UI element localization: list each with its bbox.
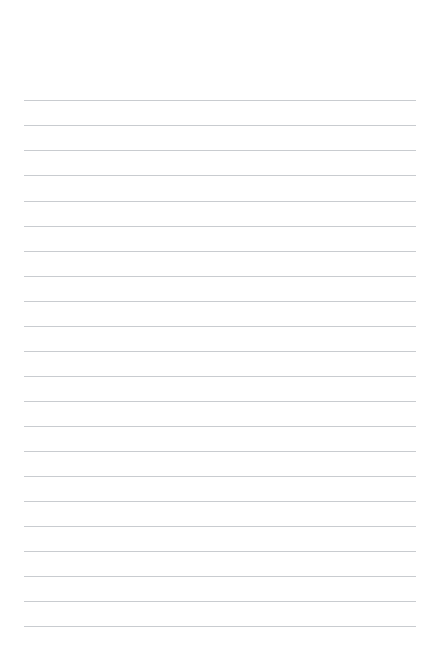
writing-row[interactable] [24,153,416,175]
rule-line [24,501,416,502]
rule-line [24,551,416,552]
writing-row[interactable] [24,204,416,226]
writing-row[interactable] [24,404,416,426]
rule-line [24,251,416,252]
writing-row[interactable] [24,329,416,351]
rule-line [24,100,416,101]
writing-row[interactable] [24,354,416,376]
rule-line [24,451,416,452]
page-footer-blank-area [0,627,439,666]
writing-row[interactable] [24,229,416,251]
writing-row[interactable] [24,128,416,150]
writing-row[interactable] [24,579,416,601]
writing-row[interactable] [24,554,416,576]
rule-line [24,201,416,202]
rule-line [24,351,416,352]
rule-line [24,376,416,377]
writing-row[interactable] [24,479,416,501]
rule-line [24,526,416,527]
writing-row[interactable] [24,529,416,551]
rule-line [24,175,416,176]
rule-line [24,326,416,327]
writing-row[interactable] [24,103,416,125]
writing-row[interactable] [24,78,416,100]
writing-row[interactable] [24,179,416,201]
ruled-writing-area[interactable] [0,0,439,666]
rule-line [24,476,416,477]
writing-row[interactable] [24,379,416,401]
rule-line [24,276,416,277]
writing-row[interactable] [24,254,416,276]
writing-row[interactable] [24,429,416,451]
writing-row[interactable] [24,454,416,476]
rule-line [24,601,416,602]
rule-line [24,125,416,126]
rule-line [24,150,416,151]
rule-line [24,226,416,227]
rule-line [24,426,416,427]
writing-row[interactable] [24,279,416,301]
rule-line [24,576,416,577]
rule-line [24,301,416,302]
writing-row[interactable] [24,304,416,326]
writing-row[interactable] [24,604,416,626]
writing-row[interactable] [24,504,416,526]
lined-paper-page [0,0,439,666]
rule-line [24,401,416,402]
